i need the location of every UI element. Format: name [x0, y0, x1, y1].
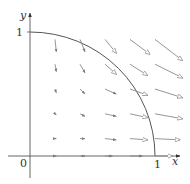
field-arrow-icon — [155, 114, 183, 119]
field-arrow-icon — [105, 39, 116, 53]
axes — [8, 13, 180, 178]
field-arrow-icon — [155, 89, 183, 98]
y-axis-label: y — [19, 9, 27, 22]
field-arrows — [55, 39, 183, 156]
field-arrow-icon — [55, 114, 56, 115]
x-tick-label: 1 — [154, 158, 161, 171]
field-arrow-icon — [105, 114, 116, 117]
field-arrow-icon — [80, 64, 85, 73]
field-arrow-icon — [130, 139, 148, 140]
field-arrow-icon — [130, 114, 148, 118]
x-axis-label: x — [172, 155, 179, 168]
field-arrow-icon — [55, 64, 56, 72]
field-arrow-icon — [105, 139, 116, 140]
field-arrow-icon — [155, 139, 180, 140]
vector-field-diagram: y 1 0 1 x — [0, 0, 190, 184]
field-arrow-icon — [105, 89, 116, 94]
field-arrow-icon — [130, 39, 150, 54]
field-arrow-icon — [155, 39, 183, 60]
origin-label: 0 — [20, 157, 27, 170]
field-arrow-icon — [55, 89, 56, 93]
field-arrow-icon — [55, 39, 56, 51]
field-arrow-icon — [130, 64, 148, 75]
y-tick-label: 1 — [16, 26, 23, 39]
quarter-circle-curve — [30, 32, 155, 156]
field-arrow-icon — [105, 64, 116, 74]
field-arrow-icon — [80, 89, 85, 94]
field-arrow-icon — [80, 114, 85, 117]
field-arrow-icon — [155, 64, 183, 78]
field-arrow-icon — [80, 39, 85, 51]
